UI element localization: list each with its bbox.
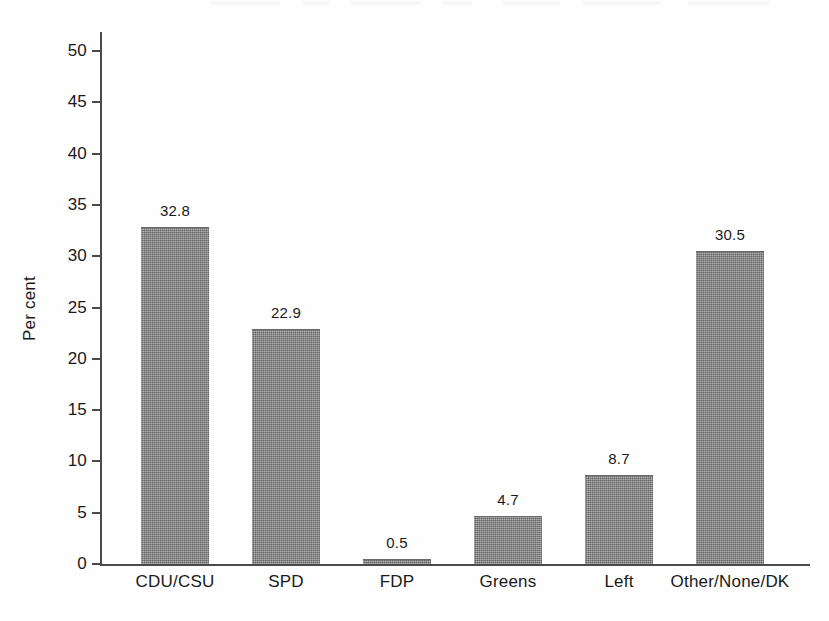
x-axis-category-label: Other/None/DK (660, 572, 800, 592)
bar[interactable] (141, 227, 209, 564)
bar-group: 0.5FDP (341, 0, 453, 621)
bar[interactable] (696, 251, 764, 564)
bar-group: 30.5Other/None/DK (674, 0, 786, 621)
bar-value-label: 32.8 (119, 203, 231, 218)
bar-value-label: 0.5 (341, 535, 453, 550)
bar[interactable] (474, 516, 542, 564)
bar[interactable] (252, 329, 320, 564)
bar-group: 22.9SPD (230, 0, 342, 621)
bar-value-label: 30.5 (674, 227, 786, 242)
bar[interactable] (585, 475, 653, 564)
bar-chart-figure: Per cent 05101520253035404550 32.8CDU/CS… (0, 0, 829, 621)
bar-group: 32.8CDU/CSU (119, 0, 231, 621)
bar[interactable] (363, 559, 431, 564)
bars-layer: 32.8CDU/CSU22.9SPD0.5FDP4.7Greens8.7Left… (0, 0, 829, 621)
bar-value-label: 22.9 (230, 305, 342, 320)
bar-group: 8.7Left (563, 0, 675, 621)
bar-group: 4.7Greens (452, 0, 564, 621)
bar-value-label: 8.7 (563, 451, 675, 466)
bar-value-label: 4.7 (452, 492, 564, 507)
